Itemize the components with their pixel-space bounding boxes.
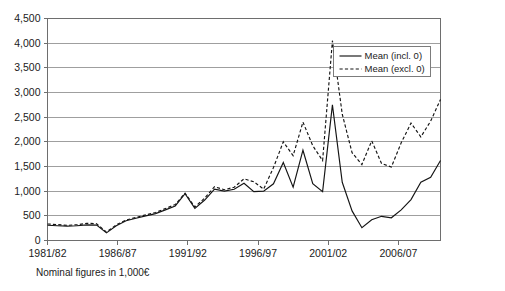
y-axis-tick-label: 2,500 <box>14 111 40 123</box>
x-axis-tick-label: 1986/87 <box>99 247 137 259</box>
x-axis-tick-label: 1996/97 <box>239 247 277 259</box>
y-axis-tick-label: 1,000 <box>14 185 40 197</box>
legend-label: Mean (incl. 0) <box>365 50 423 61</box>
x-axis-labels-group: 1981/821986/871991/921996/972001/022006/… <box>29 247 418 259</box>
line-chart: 05001,0001,5002,0002,5003,0003,5004,0004… <box>0 0 505 291</box>
y-axis-tick-label: 500 <box>23 209 41 221</box>
figure-caption: Nominal figures in 1,000€ <box>36 267 150 278</box>
y-axis-tick-label: 1,500 <box>14 160 40 172</box>
y-axis-tick-label: 3,000 <box>14 86 40 98</box>
chart-legend: Mean (incl. 0)Mean (excl. 0) <box>334 47 431 77</box>
y-axis-tick-label: 3,500 <box>14 61 40 73</box>
y-axis-tick-label: 0 <box>35 234 41 246</box>
y-axis-labels-group: 05001,0001,5002,0002,5003,0003,5004,0004… <box>14 12 40 246</box>
y-axis-tick-label: 4,000 <box>14 37 40 49</box>
y-tick-marks-group <box>44 19 48 241</box>
x-axis-tick-label: 2006/07 <box>379 247 417 259</box>
y-axis-tick-label: 4,500 <box>14 12 40 24</box>
x-axis-tick-label: 2001/02 <box>309 247 347 259</box>
x-axis-tick-label: 1981/82 <box>29 247 67 259</box>
x-axis-tick-label: 1991/92 <box>169 247 207 259</box>
series-line-mean-incl-zero <box>48 105 441 233</box>
y-axis-tick-label: 2,000 <box>14 135 40 147</box>
chart-figure: 05001,0001,5002,0002,5003,0003,5004,0004… <box>0 0 505 291</box>
x-tick-marks-group <box>48 241 399 246</box>
legend-label: Mean (excl. 0) <box>365 63 425 74</box>
